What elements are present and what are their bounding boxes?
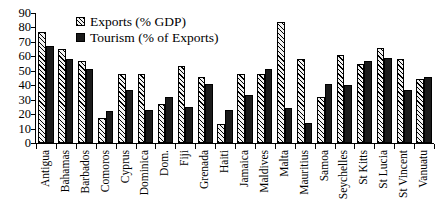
bar-tourism <box>126 90 134 143</box>
hatched-swatch-icon <box>76 17 85 26</box>
bar-exports <box>297 59 305 143</box>
y-tick-label: 50 <box>19 65 32 77</box>
bar-exports <box>58 49 66 143</box>
y-tick-label: 20 <box>19 108 32 120</box>
x-tick-label: Haiti <box>219 150 231 173</box>
y-tick-mark <box>31 42 35 43</box>
x-tick-mark <box>136 144 137 149</box>
bar-chart: 0102030405060708090 AntiguaBahamasBarbad… <box>0 0 437 210</box>
x-tick-label: Mauritius <box>299 150 311 195</box>
x-tick-label: Barbados <box>80 150 92 193</box>
x-tick-mark <box>215 144 216 149</box>
x-tick-label: St Lucia <box>378 150 390 189</box>
bar-group <box>357 13 372 143</box>
bar-tourism <box>245 95 253 143</box>
bar-tourism <box>86 69 94 143</box>
bar-tourism <box>325 84 333 143</box>
y-tick-mark <box>31 27 35 28</box>
bar-tourism <box>305 123 313 143</box>
x-tick-mark <box>155 144 156 149</box>
x-tick-mark <box>36 144 37 149</box>
y-tick-label: 70 <box>19 36 32 48</box>
x-tick-mark <box>414 144 415 149</box>
bar-exports <box>138 74 146 143</box>
bar-tourism <box>165 97 173 143</box>
x-axis: AntiguaBahamasBarbadosComorosCyprusDomin… <box>36 150 434 210</box>
bar-exports <box>237 74 245 143</box>
x-tick-mark <box>175 144 176 149</box>
bar-group <box>416 13 431 143</box>
solid-swatch-icon <box>76 33 85 42</box>
x-tick-mark <box>235 144 236 149</box>
x-tick-mark <box>394 144 395 149</box>
legend-label-exports: Exports (% GDP) <box>90 15 186 29</box>
bar-exports <box>78 61 86 143</box>
y-tick-mark <box>31 129 35 130</box>
legend-item-exports: Exports (% GDP) <box>76 14 266 29</box>
bar-group <box>397 13 412 143</box>
y-tick-label: 10 <box>19 123 32 135</box>
x-tick-label: Jamaica <box>239 150 251 187</box>
bar-group <box>317 13 332 143</box>
bar-tourism <box>205 84 213 143</box>
x-tick-mark <box>335 144 336 149</box>
bar-group <box>277 13 292 143</box>
x-tick-mark <box>275 144 276 149</box>
bar-tourism <box>364 61 372 143</box>
x-tick-label: Fiji <box>179 150 191 166</box>
chart-legend: Exports (% GDP) Tourism (% of Exports) <box>76 14 266 46</box>
bar-tourism <box>285 108 293 143</box>
bar-exports <box>416 79 424 143</box>
y-tick-mark <box>31 100 35 101</box>
y-axis: 0102030405060708090 <box>0 0 34 210</box>
bar-tourism <box>145 110 153 143</box>
x-tick-mark <box>76 144 77 149</box>
bar-exports <box>337 55 345 143</box>
x-tick-mark <box>195 144 196 149</box>
bar-exports <box>217 124 225 143</box>
bar-tourism <box>265 69 273 143</box>
y-tick-mark <box>31 143 35 144</box>
x-tick-mark <box>315 144 316 149</box>
bar-exports <box>317 97 325 143</box>
x-tick-mark <box>374 144 375 149</box>
bar-tourism <box>106 111 114 143</box>
bar-exports <box>118 74 126 143</box>
x-tick-label: Vanuatu <box>418 150 430 188</box>
x-tick-label: Seychelles <box>338 150 350 199</box>
x-tick-label: Cyprus <box>120 150 132 183</box>
x-tick-label: Maldives <box>259 150 271 193</box>
y-tick-mark <box>31 13 35 14</box>
y-tick-mark <box>31 71 35 72</box>
bar-exports <box>397 59 405 143</box>
bar-tourism <box>46 46 54 143</box>
y-tick-mark <box>31 56 35 57</box>
x-tick-label: Malta <box>279 150 291 177</box>
bar-group <box>377 13 392 143</box>
bar-exports <box>357 64 365 143</box>
bar-exports <box>277 22 285 143</box>
bar-exports <box>158 104 166 143</box>
bar-tourism <box>424 77 432 143</box>
bar-exports <box>257 74 265 143</box>
bar-tourism <box>404 90 412 143</box>
bar-tourism <box>225 110 233 143</box>
bar-exports <box>38 32 46 143</box>
y-tick-label: 80 <box>19 21 32 33</box>
x-tick-label: Samoa <box>319 150 331 181</box>
y-tick-label: 60 <box>19 50 32 62</box>
x-tick-label: Comoros <box>100 150 112 192</box>
x-tick-label: Bahamas <box>60 150 72 192</box>
y-tick-mark <box>31 114 35 115</box>
x-tick-mark <box>116 144 117 149</box>
x-tick-label: St Vincent <box>398 150 410 198</box>
x-tick-label: Dominica <box>139 150 151 195</box>
x-tick-label: Antigua <box>40 150 52 187</box>
bar-group <box>38 13 53 143</box>
bar-group <box>337 13 352 143</box>
x-tick-mark <box>295 144 296 149</box>
bar-exports <box>198 77 206 143</box>
bar-tourism <box>185 107 193 143</box>
bar-exports <box>377 48 385 143</box>
legend-label-tourism: Tourism (% of Exports) <box>90 31 218 45</box>
